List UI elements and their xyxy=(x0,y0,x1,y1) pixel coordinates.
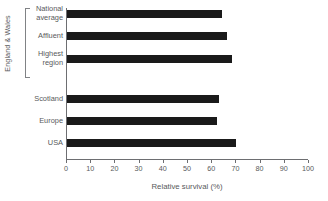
bar xyxy=(67,10,222,18)
plot-area: 0102030405060708090100 xyxy=(66,8,308,159)
x-tick-label: 60 xyxy=(207,164,215,173)
x-tick-mark xyxy=(163,160,164,163)
category-label: Affluent xyxy=(30,32,63,40)
category-label: Highestregion xyxy=(30,50,63,66)
relative-survival-bar-chart: England & Wales NationalaverageAffluentH… xyxy=(0,0,328,201)
group-label-text: England & Wales xyxy=(3,15,12,71)
category-label: Europe xyxy=(30,117,63,125)
category-label: Nationalaverage xyxy=(30,5,63,21)
bar xyxy=(67,95,219,103)
x-tick-mark xyxy=(66,160,67,163)
x-tick-mark xyxy=(187,160,188,163)
x-tick-mark xyxy=(114,160,115,163)
x-tick-label: 50 xyxy=(183,164,191,173)
bar xyxy=(67,55,232,63)
x-tick-label: 70 xyxy=(231,164,239,173)
x-tick-mark xyxy=(284,160,285,163)
x-tick-mark xyxy=(139,160,140,163)
bar xyxy=(67,117,217,125)
x-tick-label: 30 xyxy=(135,164,143,173)
x-tick-mark xyxy=(308,160,309,163)
x-tick-label: 10 xyxy=(86,164,94,173)
category-label: USA xyxy=(30,139,63,147)
x-tick-label: 100 xyxy=(302,164,314,173)
bar xyxy=(67,139,236,147)
category-axis-labels: NationalaverageAffluentHighestregionScot… xyxy=(30,0,63,160)
category-label-line: Scotland xyxy=(30,95,63,103)
x-tick-mark xyxy=(235,160,236,163)
bar xyxy=(67,32,227,40)
x-tick-label: 90 xyxy=(280,164,288,173)
x-tick-label: 80 xyxy=(256,164,264,173)
category-label-line: USA xyxy=(30,139,63,147)
category-label-line: region xyxy=(30,59,63,67)
x-tick-label: 20 xyxy=(110,164,118,173)
x-axis-title: Relative survival (%) xyxy=(66,182,308,191)
x-tick-mark xyxy=(260,160,261,163)
group-label-england-wales: England & Wales xyxy=(0,8,14,78)
x-tick-label: 0 xyxy=(64,164,68,173)
category-label-line: Affluent xyxy=(30,32,63,40)
category-label: Scotland xyxy=(30,95,63,103)
x-tick-mark xyxy=(90,160,91,163)
category-label-line: Europe xyxy=(30,117,63,125)
x-tick-label: 40 xyxy=(159,164,167,173)
x-tick-mark xyxy=(211,160,212,163)
category-label-line: average xyxy=(30,14,63,22)
y-axis-line xyxy=(66,8,67,159)
